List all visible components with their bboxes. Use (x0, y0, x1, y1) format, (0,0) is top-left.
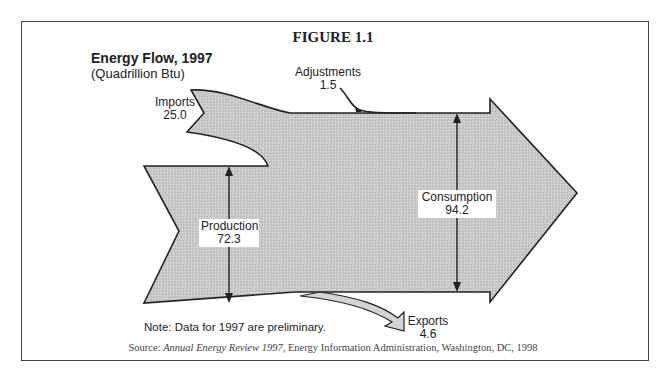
figure-note: Note: Data for 1997 are preliminary. (144, 321, 326, 333)
source-title: Annual Energy Review 1997 (163, 342, 282, 353)
exports-label: Exports 4.6 (406, 315, 450, 341)
imports-label: Imports 25.0 (150, 96, 200, 122)
exports-value: 4.6 (406, 328, 450, 341)
production-label: Production 72.3 (199, 219, 259, 247)
main-flow-shape (144, 90, 577, 303)
source-prefix: Source: (129, 342, 164, 353)
figure-source: Source: Annual Energy Review 1997, Energ… (0, 342, 666, 353)
consumption-label: Consumption 94.2 (418, 190, 496, 218)
energy-flow-diagram (0, 0, 666, 385)
consumption-value: 94.2 (420, 204, 494, 217)
production-value: 72.3 (201, 233, 257, 246)
production-arrowhead-down-icon (225, 293, 233, 303)
adjustments-value: 1.5 (288, 79, 368, 92)
adjustments-label: Adjustments 1.5 (288, 66, 368, 92)
imports-value: 25.0 (150, 109, 200, 122)
source-suffix: , Energy Information Administration, Was… (283, 342, 538, 353)
